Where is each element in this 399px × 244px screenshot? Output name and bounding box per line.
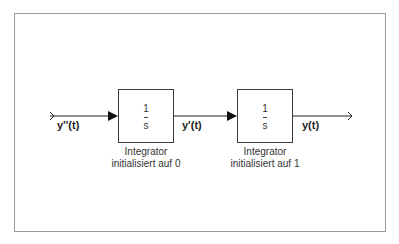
caption-title: Integrator <box>91 146 201 158</box>
caption-title: Integrator <box>210 146 320 158</box>
arrowhead-icon <box>227 111 237 121</box>
fraction-bar <box>144 117 148 118</box>
fraction-bar <box>263 117 267 118</box>
tf-denominator: s <box>238 120 292 131</box>
integrator-block-2[interactable]: 1 s <box>237 89 293 143</box>
block-2-caption: Integrator initialisiert auf 1 <box>210 146 320 170</box>
middle-signal-label: y'(t) <box>182 119 202 131</box>
caption-detail: initialisiert auf 1 <box>210 158 320 170</box>
integrator-block-1[interactable]: 1 s <box>118 89 174 143</box>
arrowhead-icon <box>108 111 118 121</box>
output-signal-label: y(t) <box>302 119 319 131</box>
tf-denominator: s <box>119 120 173 131</box>
tf-numerator: 1 <box>238 103 292 114</box>
caption-detail: initialisiert auf 0 <box>91 158 201 170</box>
tf-numerator: 1 <box>119 103 173 114</box>
block-1-caption: Integrator initialisiert auf 0 <box>91 146 201 170</box>
input-signal-label: y''(t) <box>57 119 79 131</box>
